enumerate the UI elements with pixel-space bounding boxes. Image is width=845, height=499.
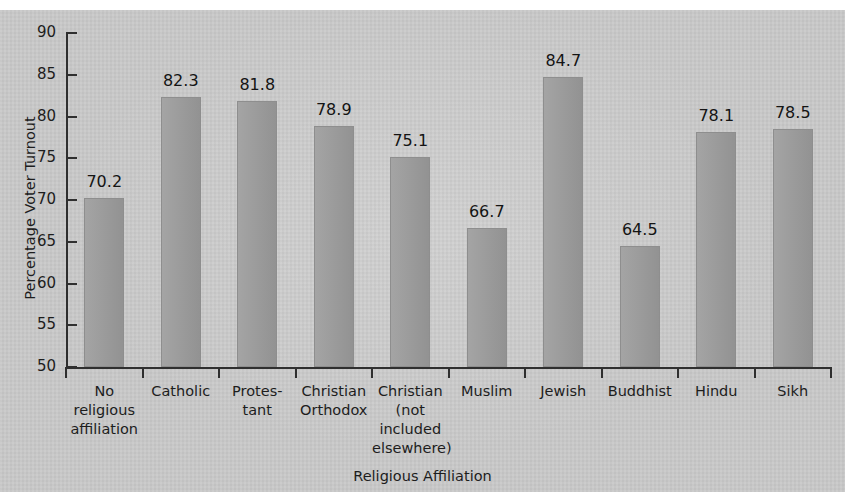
y-axis-tick <box>66 116 77 118</box>
y-axis-line <box>66 33 68 369</box>
category-label-line: tant <box>219 401 296 420</box>
bar <box>620 246 660 367</box>
bar <box>314 126 354 367</box>
category-label-line: Buddhist <box>602 382 679 401</box>
category-label-line: Christian <box>372 382 449 401</box>
bar-value-label: 78.1 <box>676 108 756 124</box>
chart-page: 505560657075808590 70.282.381.878.975.16… <box>0 0 845 499</box>
category-label-line: No <box>66 382 143 401</box>
x-axis-tick <box>295 367 297 378</box>
category-label-line: elsewhere) <box>372 439 449 458</box>
x-axis-tick <box>601 367 603 378</box>
bar <box>237 101 277 367</box>
bar <box>84 198 124 367</box>
x-axis-tick <box>677 367 679 378</box>
category-label-line: included <box>372 420 449 439</box>
bar-value-label: 78.5 <box>753 105 833 121</box>
y-axis-tick <box>66 199 77 201</box>
category-label-line: Hindu <box>678 382 755 401</box>
category-label-line: Orthodox <box>296 401 373 420</box>
x-axis-tick <box>448 367 450 378</box>
category-label: Buddhist <box>602 382 679 401</box>
x-axis-tick <box>830 367 832 378</box>
category-label-line: Protes- <box>219 382 296 401</box>
y-axis-tick <box>66 32 77 34</box>
category-label-line: affiliation <box>66 420 143 439</box>
bar <box>773 129 813 367</box>
category-label: Muslim <box>449 382 526 401</box>
bar <box>696 132 736 367</box>
category-label-line: Catholic <box>143 382 220 401</box>
category-label: Sikh <box>755 382 832 401</box>
y-axis-title: Percentage Voter Turnout <box>22 43 38 373</box>
category-label: Jewish <box>525 382 602 401</box>
bar-chart-plot-area: 505560657075808590 70.282.381.878.975.16… <box>0 0 845 499</box>
bar-value-label: 64.5 <box>600 222 680 238</box>
bar-value-label: 78.9 <box>294 102 374 118</box>
bar <box>161 97 201 367</box>
category-label: Hindu <box>678 382 755 401</box>
y-axis-tick <box>66 324 77 326</box>
bar <box>543 77 583 367</box>
bar-value-label: 70.2 <box>64 174 144 190</box>
y-axis-tick <box>66 157 77 159</box>
bar-value-label: 66.7 <box>447 204 527 220</box>
category-label-line: Muslim <box>449 382 526 401</box>
x-axis-tick <box>218 367 220 378</box>
x-axis-tick <box>524 367 526 378</box>
y-axis-tick-label: 90 <box>22 25 56 40</box>
y-axis-tick <box>66 283 77 285</box>
y-axis-tick <box>66 241 77 243</box>
bar-value-label: 84.7 <box>523 53 603 69</box>
category-label-line: Sikh <box>755 382 832 401</box>
category-label: ChristianOrthodox <box>296 382 373 420</box>
category-label: Noreligiousaffiliation <box>66 382 143 439</box>
x-axis-tick <box>142 367 144 378</box>
category-label: Christian(notincludedelsewhere) <box>372 382 449 459</box>
x-axis-tick <box>371 367 373 378</box>
category-label-line: Christian <box>296 382 373 401</box>
category-label-line: religious <box>66 401 143 420</box>
bar-value-label: 75.1 <box>370 133 450 149</box>
category-label: Protes-tant <box>219 382 296 420</box>
y-axis-tick <box>66 366 77 368</box>
bar-value-label: 82.3 <box>141 73 221 89</box>
y-axis-tick <box>66 74 77 76</box>
category-label-line: (not <box>372 401 449 420</box>
x-axis-tick <box>65 367 67 378</box>
bar-value-label: 81.8 <box>217 77 297 93</box>
bar <box>467 228 507 367</box>
x-axis-title: Religious Affiliation <box>0 468 845 484</box>
x-axis-tick <box>754 367 756 378</box>
category-label-line: Jewish <box>525 382 602 401</box>
bar <box>390 157 430 367</box>
category-label: Catholic <box>143 382 220 401</box>
